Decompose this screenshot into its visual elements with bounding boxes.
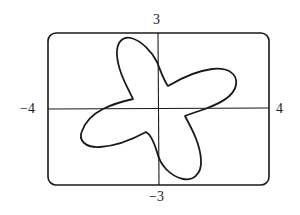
y-min-label: −3 <box>149 190 164 204</box>
plot-svg <box>0 0 300 215</box>
x-min-label: −4 <box>20 102 35 116</box>
x-max-label: 4 <box>276 102 283 116</box>
y-axis <box>158 33 159 185</box>
polar-graph: 3 −3 −4 4 <box>0 0 300 215</box>
y-max-label: 3 <box>153 13 160 27</box>
